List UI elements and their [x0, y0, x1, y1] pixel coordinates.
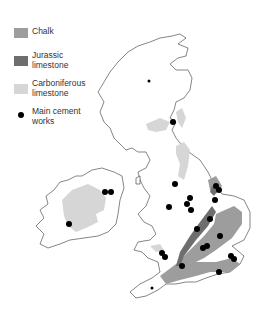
- britain-ireland-map: [0, 0, 267, 319]
- cement-works-dot: [204, 243, 210, 249]
- cement-works-dot: [217, 233, 223, 239]
- cement-works-dot: [187, 195, 193, 201]
- cement-works-dot: [179, 263, 185, 269]
- cement-works-dot: [102, 189, 108, 195]
- cement-works-dot: [170, 119, 176, 125]
- cement-works-dot: [188, 207, 194, 213]
- cement-works-dot: [194, 226, 200, 232]
- cement-works-dot: [184, 201, 190, 207]
- cement-works-dot: [151, 287, 154, 290]
- cement-works-dot: [216, 187, 222, 193]
- cement-works-dot: [212, 197, 218, 203]
- great-britain-coastline: [98, 34, 250, 298]
- cement-works-dot: [66, 221, 72, 227]
- cement-works-dot: [207, 216, 213, 222]
- cement-works-dot: [231, 256, 237, 262]
- carboniferous-northumberland: [176, 108, 186, 128]
- cement-works-dot: [166, 204, 172, 210]
- cement-works-dot: [216, 269, 222, 275]
- cement-works-dot: [172, 181, 178, 187]
- cement-works-dot: [148, 80, 151, 83]
- cement-works-dot: [108, 189, 114, 195]
- isle-of-man: [136, 176, 140, 184]
- cement-works-dot: [162, 254, 168, 260]
